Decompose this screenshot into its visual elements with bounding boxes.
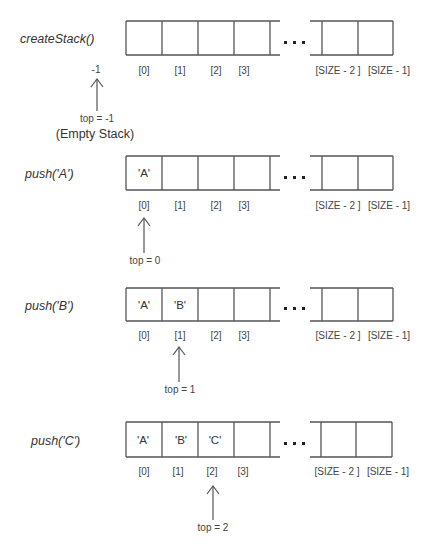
index-label: [SIZE - 2 ] (315, 200, 360, 211)
index-label: [1] (172, 466, 183, 477)
pointer-marker: -1 (92, 64, 101, 75)
cell-value: 'B' (174, 299, 186, 311)
row-push-b: push('B') 'A' 'B' [0] [1] [2] (24, 288, 410, 395)
index-label: [SIZE - 2 ] (315, 65, 360, 76)
top-arrow-icon (91, 79, 103, 111)
index-label: [SIZE - 2 ] (315, 330, 360, 341)
index-label: [0] (138, 330, 149, 341)
ellipsis-icon (284, 176, 305, 179)
top-pointer-label: top = -1 (80, 113, 115, 124)
index-label: [SIZE - 1] (368, 65, 410, 76)
operation-label: push('C') (30, 434, 80, 448)
array-right-segment (310, 422, 392, 457)
cell-value: 'A' (138, 167, 150, 179)
index-label: [SIZE - 1] (368, 200, 410, 211)
index-label: [3] (238, 330, 249, 341)
row-push-a: push('A') 'A' [0] [1] [2] [3] (24, 156, 410, 266)
index-label: [2] (210, 65, 221, 76)
operation-label: createStack() (20, 32, 94, 46)
top-arrow-icon (138, 218, 150, 253)
index-label: [1] (174, 200, 185, 211)
top-pointer-label: top = 1 (165, 384, 196, 395)
index-label: [0] (138, 65, 149, 76)
array-left-segment (126, 21, 280, 55)
index-label: [2] (210, 330, 221, 341)
index-label: [0] (138, 200, 149, 211)
index-labels: [0] [1] [2] [3] [SIZE - 2 ] [SIZE - 1] (138, 65, 410, 76)
array-left-segment (126, 422, 280, 457)
index-label: [1] (174, 330, 185, 341)
array-right-segment (310, 156, 393, 190)
index-labels: [0] [1] [2] [3] [SIZE - 2 ] [SIZE - 1] (138, 200, 410, 211)
row-push-c: push('C') 'A' 'B' 'C' [0] [1] (30, 422, 409, 533)
ellipsis-icon (284, 307, 305, 310)
index-label: [1] (174, 65, 185, 76)
index-label: [0] (138, 466, 149, 477)
ellipsis-icon (284, 442, 305, 445)
top-pointer-label: top = 2 (198, 522, 229, 533)
top-pointer-label: top = 0 (130, 255, 161, 266)
top-arrow-icon (173, 347, 185, 382)
top-arrow-icon (207, 486, 219, 520)
index-label: [2] (206, 466, 217, 477)
stack-diagram: createStack() [0] [1] [2] [3] (0, 0, 430, 553)
cell-value: 'B' (175, 434, 187, 446)
index-label: [SIZE - 1] (368, 330, 410, 341)
empty-stack-note: (Empty Stack) (56, 127, 135, 141)
operation-label: push('B') (24, 299, 74, 313)
cell-value: 'A' (138, 299, 150, 311)
index-labels: [0] [1] [2] [3] [SIZE - 2 ] [SIZE - 1] (138, 466, 409, 477)
index-label: [3] (238, 200, 249, 211)
index-labels: [0] [1] [2] [3] [SIZE - 2 ] [SIZE - 1] (138, 330, 410, 341)
ellipsis-icon (284, 41, 305, 44)
array-right-segment (310, 288, 393, 321)
index-label: [3] (238, 65, 249, 76)
operation-label: push('A') (24, 167, 74, 181)
index-label: [2] (210, 200, 221, 211)
index-label: [SIZE - 2 ] (314, 466, 359, 477)
array-right-segment (310, 21, 393, 55)
index-label: [3] (237, 466, 248, 477)
index-label: [SIZE - 1] (367, 466, 409, 477)
row-create-stack: createStack() [0] [1] [2] [3] (20, 21, 410, 141)
cell-value: 'C' (209, 434, 222, 446)
cell-value: 'A' (137, 434, 149, 446)
